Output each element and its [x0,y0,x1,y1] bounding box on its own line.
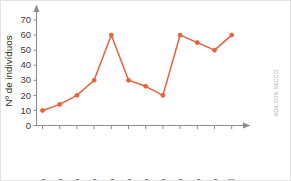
x-tick-label: dezembro [158,179,168,181]
data-series-group [41,33,234,112]
data-point [109,33,113,37]
y-tick-label: 70 [20,14,31,25]
y-tick-labels: 0 10 20 30 40 50 60 70 [20,14,31,131]
data-point [178,33,182,37]
data-point [41,108,45,112]
data-point [92,78,96,82]
y-tick-label: 20 [20,90,31,101]
data-point [230,33,234,37]
y-tick-label: 50 [20,44,31,55]
y-tick-label: 60 [20,29,31,40]
x-tick-label: agosto [89,179,99,181]
x-tick-label: janeiro [175,179,185,181]
y-axis-title: Nº de indivíduos [3,35,14,106]
y-tick-label: 40 [20,59,31,70]
chart-figure: 0 10 20 30 40 50 60 70 Nº de indivíduos [0,0,291,181]
line-chart: 0 10 20 30 40 50 60 70 Nº de indivíduos [1,1,291,181]
data-point [75,93,79,97]
data-point [195,41,199,45]
x-tick-label: julho [72,179,82,181]
data-point [213,48,217,52]
x-axis [37,122,251,128]
series-line [43,35,232,110]
y-tick-label: 30 [20,74,31,85]
x-tick-label: setembro [107,179,117,181]
x-tick-label: fevereiro [193,179,203,181]
series-points [41,33,234,112]
x-tick-label: novembro [141,179,151,181]
x-tick-label: abril [227,179,237,181]
y-tick-label: 10 [20,105,31,116]
data-point [58,102,62,106]
data-point [144,84,148,88]
x-tick-label: maio [38,179,48,181]
credit-label: ADILSON SECCO [273,69,279,116]
x-tick-labels: maio junho julho agosto setembro outubro… [38,179,237,181]
x-tick-label: junho [55,179,65,181]
y-tick-label: 0 [26,120,31,131]
x-tick-label: outubro [124,179,134,181]
y-axis-title-text: Nº de indivíduos [3,35,14,106]
x-tick-label: março [210,179,220,181]
data-point [127,78,131,82]
data-point [161,93,165,97]
